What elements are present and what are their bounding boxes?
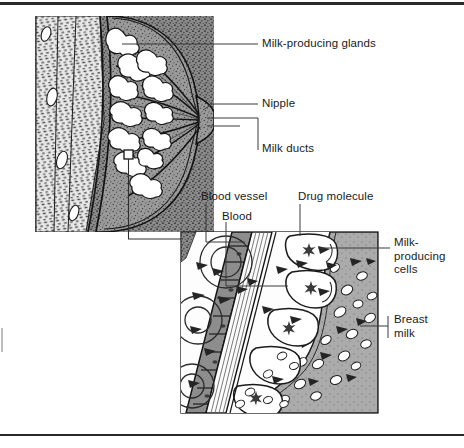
breast-cross-section-group [35, 16, 214, 232]
label-breast-milk: Breast milk [394, 313, 428, 340]
label-nipple: Nipple [262, 97, 295, 111]
label-milk-producing-cells: Milk- producing cells [394, 236, 445, 277]
illustration-canvas [0, 0, 464, 448]
detail-panel-group [170, 232, 378, 418]
breast-drug-transfer-figure: Milk-producing glands Nipple Milk ducts … [0, 0, 464, 448]
label-milk-ducts: Milk ducts [262, 142, 314, 156]
label-blood-vessel: Blood vessel [201, 190, 267, 204]
label-milk-producing-glands: Milk-producing glands [262, 37, 376, 51]
label-blood: Blood [222, 210, 252, 224]
magnification-marker [124, 150, 133, 159]
label-drug-molecule: Drug molecule [298, 190, 373, 204]
